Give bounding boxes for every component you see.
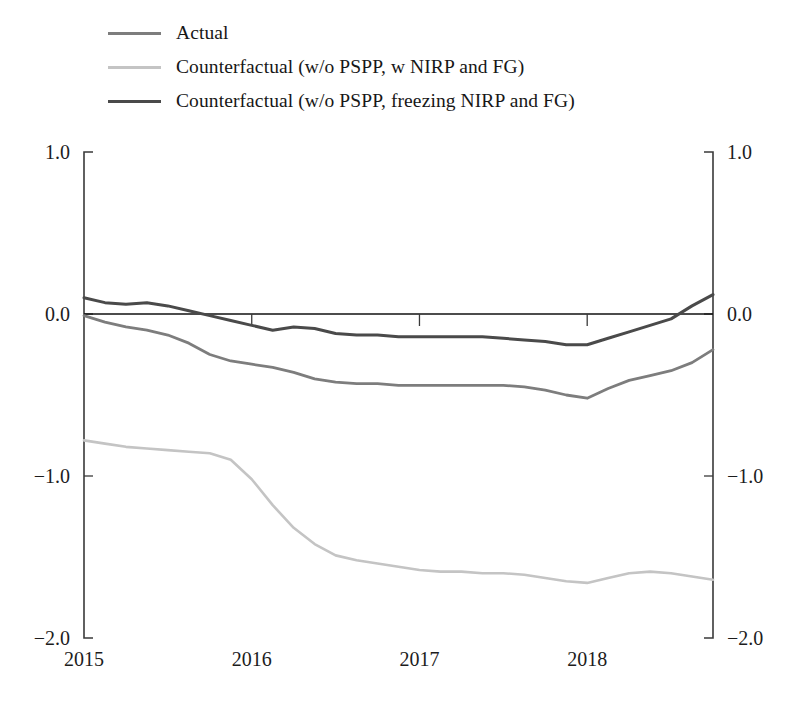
y-axis-right-labels: 1.00.0−1.0−2.0 <box>727 141 763 649</box>
series-line-actual <box>84 316 713 399</box>
x-label-2015: 2015 <box>64 648 104 670</box>
y-label-left--1.0: −1.0 <box>34 465 70 487</box>
y-label-left--2.0: −2.0 <box>34 627 70 649</box>
x-label-2017: 2017 <box>399 648 439 670</box>
line-chart: 1.00.0−1.0−2.0 1.00.0−1.0−2.0 2015201620… <box>0 0 791 704</box>
y-label-right--1.0: −1.0 <box>727 465 763 487</box>
y-axis-right <box>704 152 713 638</box>
x-label-2016: 2016 <box>232 648 272 670</box>
series-line-counterfactual-nirp-fg <box>84 440 713 583</box>
y-label-left-1.0: 1.0 <box>45 141 70 163</box>
y-axis-left-labels: 1.00.0−1.0−2.0 <box>34 141 70 649</box>
y-label-left-0.0: 0.0 <box>45 303 70 325</box>
series-group <box>84 295 713 583</box>
x-axis-labels: 2015201620172018 <box>64 648 607 670</box>
y-label-right-0.0: 0.0 <box>727 303 752 325</box>
x-axis-ticks <box>252 314 587 326</box>
y-label-right-1.0: 1.0 <box>727 141 752 163</box>
x-label-2018: 2018 <box>567 648 607 670</box>
y-axis-left <box>84 152 93 638</box>
y-label-right--2.0: −2.0 <box>727 627 763 649</box>
figure-container: Actual Counterfactual (w/o PSPP, w NIRP … <box>0 0 791 704</box>
series-line-counterfactual-freezing <box>84 295 713 345</box>
